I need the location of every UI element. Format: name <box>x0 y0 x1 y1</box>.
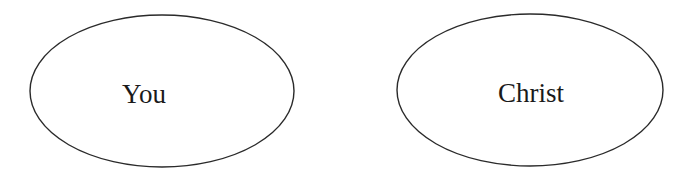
christ-label: Christ <box>498 78 565 108</box>
node-christ: Christ <box>397 14 663 166</box>
node-you: You <box>30 15 294 167</box>
diagram-canvas: You Christ <box>0 0 698 176</box>
you-label: You <box>122 79 166 109</box>
